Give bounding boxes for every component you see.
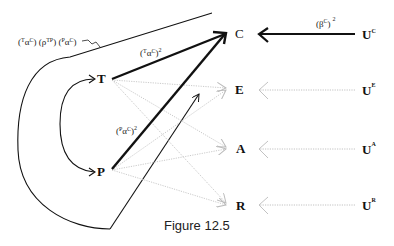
node-ua: UA [362,141,376,157]
edge-t-to-c [112,34,225,79]
error-paths [259,82,355,214]
label-loop-path: (TαC) (ρTP) (PαC) [18,37,77,47]
node-p: P [97,164,105,179]
node-e: E [235,82,244,97]
node-ur: UR [362,197,376,213]
node-c: C [235,26,244,41]
correlation-arrow [60,79,94,172]
node-t: T [97,71,106,86]
label-t-to-c: (TαC)2 [140,47,161,58]
loop-path-end [110,94,199,229]
node-ue: UE [362,82,375,98]
loop-path [18,13,212,229]
label-u-to-c: (βC)2 [316,16,336,29]
path-diagram: T P C E A R UC UE UA UR (TαC) (ρTP) (PαC… [0,0,394,246]
figure-caption: Figure 12.5 [164,218,230,233]
label-pointer-arrow [82,40,100,47]
node-uc: UC [362,27,376,42]
node-r: R [236,198,246,213]
label-p-to-c: (PαC)2 [116,125,137,136]
node-a: A [236,141,246,156]
dotted-paths [112,80,226,205]
edge-p-to-c [112,34,225,169]
